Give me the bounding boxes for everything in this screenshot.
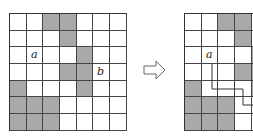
route-path: [0, 0, 253, 139]
